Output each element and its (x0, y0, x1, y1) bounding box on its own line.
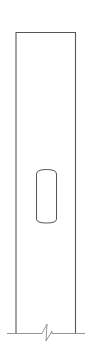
slot-opening (37, 170, 57, 224)
elevation-drawing (0, 0, 111, 349)
ground-break-line (7, 324, 85, 341)
panel-outline (16, 33, 76, 334)
